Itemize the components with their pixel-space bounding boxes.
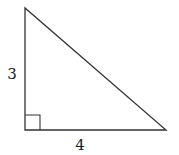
right-triangle — [25, 8, 166, 130]
right-angle-marker — [25, 115, 40, 130]
triangle-diagram: 3 4 — [0, 0, 179, 155]
horizontal-leg-label: 4 — [75, 136, 85, 154]
vertical-leg-label: 3 — [7, 65, 17, 83]
